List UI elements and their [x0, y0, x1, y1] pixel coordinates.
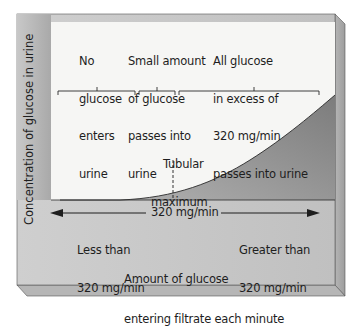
region-1-line: No	[79, 55, 122, 68]
region-3-line: in excess of	[213, 93, 308, 106]
region-1-label: No glucose enters urine	[79, 30, 122, 205]
region-2-line: Small amount	[128, 55, 206, 68]
region-1-line: enters	[79, 130, 122, 143]
y-axis-label: Concentration of glucose in urine	[22, 34, 36, 225]
region-3-line: All glucose	[213, 55, 308, 68]
region-1-line: glucose	[79, 93, 122, 106]
region-3-line: passes into urine	[213, 168, 308, 181]
board-bevel-right	[335, 14, 345, 296]
marker-line: Tubular	[151, 158, 208, 171]
axis-center-label: 320 mg/min	[151, 206, 219, 219]
region-3-line: 320 mg/min	[213, 130, 308, 143]
x-axis-line-2: entering filtrate each minute	[124, 313, 284, 326]
region-3-label: All glucose in excess of 320 mg/min pass…	[213, 30, 308, 205]
x-axis-line-1: Amount of glucose	[124, 273, 284, 286]
region-2-line: of glucose	[128, 93, 206, 106]
region-1-line: urine	[79, 168, 122, 181]
x-axis-label: Amount of glucose entering filtrate each…	[124, 248, 284, 330]
